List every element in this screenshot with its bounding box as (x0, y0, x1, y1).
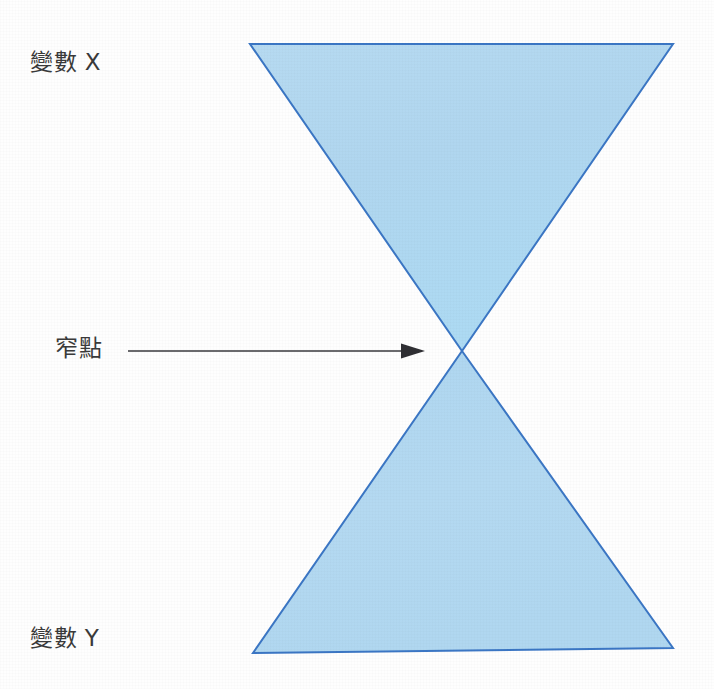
label-narrow-point: 窄點 (55, 336, 102, 361)
bottleneck-arrow (128, 344, 425, 359)
label-variable-y: 變數 Y (30, 626, 99, 651)
diagram-canvas: 變數 X 窄點 變數 Y (0, 0, 714, 689)
lower-triangle-shape (253, 351, 673, 653)
label-variable-x: 變數 X (30, 50, 101, 75)
hourglass-figure (0, 0, 714, 689)
upper-triangle-shape (250, 44, 673, 351)
arrow-head-icon (401, 344, 425, 359)
